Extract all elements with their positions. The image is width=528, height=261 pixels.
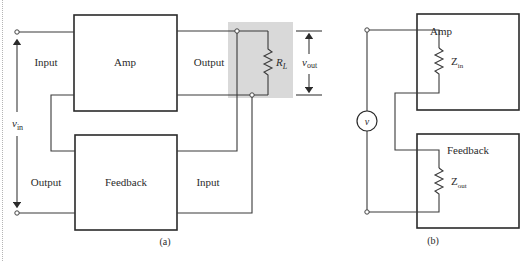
terminal-top-b — [365, 28, 369, 32]
diagram-a: Amp Feedback vin Input Output RL Output … — [12, 15, 322, 248]
caption-b: (b) — [427, 235, 439, 247]
terminal-output-top — [235, 29, 239, 33]
zin-label: Zin — [451, 55, 464, 70]
terminal-bottom-b — [365, 210, 369, 214]
zin-resistor — [395, 48, 443, 168]
source-label: v — [365, 116, 370, 127]
feedback-label-a: Feedback — [105, 176, 148, 188]
amp-label-a: Amp — [114, 56, 137, 68]
vin-label: vin — [12, 117, 23, 132]
amp-output-label: Output — [194, 56, 225, 68]
zout-label: Zout — [451, 175, 467, 190]
caption-a: (a) — [159, 236, 170, 248]
feedback-diagram: Amp Feedback vin Input Output RL Output … — [0, 0, 528, 261]
feedback-output-label: Output — [31, 176, 62, 188]
vout-label: vout — [302, 56, 318, 70]
feedback-input-label: Input — [196, 176, 219, 188]
zout-resistor — [369, 168, 443, 212]
terminal-output-bottom — [250, 93, 254, 97]
diagram-b: Amp Feedback v Zin Zout (b) — [357, 14, 519, 247]
amp-label-b: Amp — [430, 25, 453, 37]
feedback-label-b: Feedback — [447, 144, 490, 156]
terminal-bottom-left — [15, 211, 19, 215]
terminal-top-left — [15, 30, 19, 34]
amp-input-label: Input — [34, 56, 57, 68]
